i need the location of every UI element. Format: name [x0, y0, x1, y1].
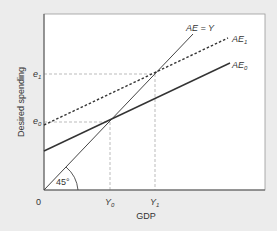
e1-label: e1	[33, 69, 41, 80]
keynesian-cross-diagram: 45° AE = Y AE1 AE0 e1 e0 0 Y0 Y1 GDP Des…	[0, 0, 277, 231]
origin-label: 0	[36, 197, 41, 207]
y-axis-title: Desired spending	[16, 67, 26, 137]
angle-label: 45°	[56, 177, 70, 187]
y1-label: Y1	[150, 197, 159, 208]
ae-equals-y-label: AE = Y	[185, 23, 215, 33]
e0-label: e0	[33, 116, 42, 127]
y0-label: Y0	[105, 197, 115, 208]
x-axis-title: GDP	[136, 211, 156, 221]
